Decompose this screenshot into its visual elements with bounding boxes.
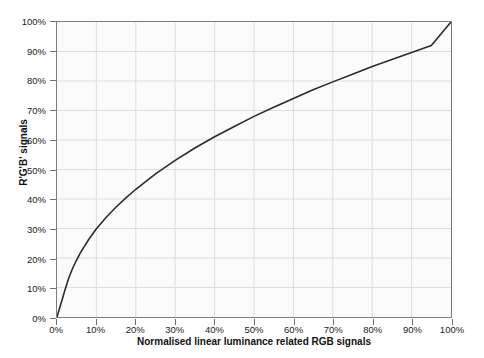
- x-axis-title: Normalised linear luminance related RGB …: [56, 336, 452, 347]
- y-axis-tick-label: 100%: [0, 16, 46, 27]
- chart-figure: 0%10%20%30%40%50%60%70%80%90%100% 0%10%2…: [0, 0, 484, 358]
- y-axis-tick-label: 20%: [0, 253, 46, 264]
- plot-area: [56, 21, 452, 318]
- x-axis-tick-label: 100%: [429, 324, 475, 335]
- y-axis-title: R'G'B' signals: [18, 83, 29, 223]
- y-axis-tick-label: 0%: [0, 313, 46, 324]
- data-series-curve: [57, 22, 451, 317]
- y-axis-tick-label: 30%: [0, 223, 46, 234]
- y-axis-tick-label: 90%: [0, 45, 46, 56]
- y-axis-tick-label: 10%: [0, 283, 46, 294]
